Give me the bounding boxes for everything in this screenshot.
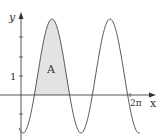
region-label-a: A <box>46 63 56 76</box>
y-axis-arrow-icon <box>19 12 24 19</box>
x-axis-label: x <box>150 97 157 110</box>
y-axis-label: y <box>8 11 16 24</box>
function-curve <box>19 19 140 133</box>
y-tick-label-1: 1 <box>10 71 16 82</box>
function-graph: y x 1 2π A <box>0 0 164 140</box>
x-tick-label-2pi: 2π <box>130 98 142 108</box>
shaded-region-a <box>34 19 69 95</box>
